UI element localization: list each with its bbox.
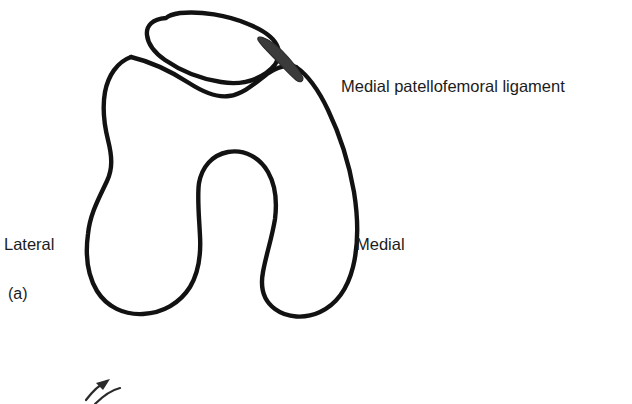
label-medial-patellofemoral-ligament: Medial patellofemoral ligament [341, 78, 565, 95]
panel-label: (a) [8, 286, 28, 302]
partial-arrow-marker [86, 379, 120, 404]
label-lateral: Lateral [4, 236, 54, 253]
label-medial: Medial [356, 236, 405, 253]
trochlear-groove [131, 57, 296, 96]
anatomy-illustration [0, 0, 632, 404]
figure-panel-a: Medial patellofemoral ligament Lateral M… [0, 0, 632, 404]
